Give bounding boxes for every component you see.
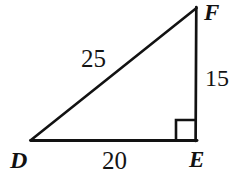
- side-length-label-vertical-leg: 15: [205, 66, 229, 90]
- vertex-label-D: D: [10, 148, 27, 172]
- right-angle-marker: [176, 120, 196, 140]
- side-length-label-hypotenuse: 25: [81, 46, 106, 71]
- side-length-label-base: 20: [102, 148, 127, 173]
- vertex-label-F: F: [204, 1, 219, 24]
- side-hypotenuse-DF: [31, 8, 197, 140]
- vertex-label-E: E: [189, 148, 204, 171]
